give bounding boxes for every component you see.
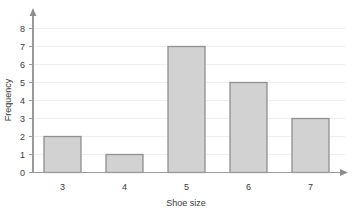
y-tick-label-6: 6 <box>20 60 25 70</box>
y-axis <box>29 8 36 173</box>
y-tick-label-7: 7 <box>20 42 25 52</box>
bar-shoe-size-5 <box>168 47 205 173</box>
y-axis-arrow-icon <box>30 8 37 16</box>
bar-shoe-size-7 <box>292 119 329 173</box>
y-tick-label-2: 2 <box>20 132 25 142</box>
y-tick-label-1: 1 <box>20 150 25 160</box>
y-tick-label-3: 3 <box>20 114 25 124</box>
y-tick-label-4: 4 <box>20 96 25 106</box>
bar-shoe-size-6 <box>230 83 267 173</box>
x-tick-label-5: 5 <box>184 182 189 192</box>
bar-shoe-size-3 <box>44 137 81 173</box>
bar-chart-figure: 8 7 6 5 4 3 2 1 0 3 4 5 6 7 Frequency Sh… <box>0 0 354 215</box>
y-tick-label-5: 5 <box>20 78 25 88</box>
bar-series <box>44 47 329 173</box>
bar-shoe-size-4 <box>106 155 143 173</box>
y-tick-label-0: 0 <box>20 168 25 178</box>
x-tick-label-3: 3 <box>60 182 65 192</box>
x-tick-label-6: 6 <box>246 182 251 192</box>
chart-canvas: 8 7 6 5 4 3 2 1 0 3 4 5 6 7 Frequency Sh… <box>0 0 354 215</box>
x-axis-title: Shoe size <box>166 198 206 208</box>
y-tick-labels: 8 7 6 5 4 3 2 1 0 <box>20 24 25 178</box>
x-axis-arrow-icon <box>340 169 348 176</box>
y-tick-label-8: 8 <box>20 24 25 34</box>
y-axis-title: Frequency <box>3 78 13 121</box>
x-tick-label-7: 7 <box>308 182 313 192</box>
x-tick-label-4: 4 <box>122 182 127 192</box>
x-tick-labels: 3 4 5 6 7 <box>60 182 313 192</box>
